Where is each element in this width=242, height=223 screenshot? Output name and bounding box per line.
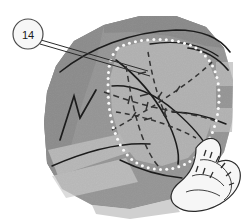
boundary-dot [152,38,155,41]
boundary-dot [147,166,150,169]
boundary-dot [183,42,186,45]
boundary-dot [188,160,191,163]
boundary-dot [159,168,162,171]
boundary-dot [141,164,144,167]
boundary-dot [217,82,220,85]
boundary-dot [126,154,129,157]
boundary-dot [159,38,162,41]
boundary-dot [108,108,111,111]
boundary-dot [213,125,216,128]
boundary-dot [165,38,168,41]
boundary-dot [211,131,214,134]
boundary-dot [177,40,180,43]
boundary-dot [107,83,110,86]
boundary-dot [115,48,118,51]
boundary-dot [194,47,197,50]
boundary-dot [217,88,220,91]
boundary-dot [140,39,143,42]
boundary-dot [122,149,125,152]
boundary-dot [114,132,117,135]
boundary-dot [107,96,110,99]
boundary-dot [109,114,112,117]
callout-label-14: 14 [22,29,34,41]
boundary-dot [134,40,137,43]
boundary-dot [217,107,220,110]
boundary-dot [130,158,133,161]
boundary-dot [204,55,207,58]
boundary-dot [153,168,156,171]
boundary-dot [214,70,217,73]
boundary-dot [165,168,168,171]
boundary-dot [208,59,211,62]
boundary-dot [146,38,149,41]
boundary-dot [171,167,174,170]
boundary-dot [183,163,186,166]
boundary-dot [108,65,111,68]
boundary-dot [211,65,214,68]
boundary-dot [217,101,220,104]
boundary-dot [199,50,202,53]
boundary-dot [116,138,119,141]
boundary-dot [215,76,218,79]
boundary-dot [215,119,218,122]
boundary-dot [112,126,115,129]
boundary-dot [189,44,192,47]
boundary-dot [177,165,180,168]
boundary-dot [107,90,110,93]
boundary-dot [112,53,115,56]
boundary-dot [107,102,110,105]
boundary-dot [110,120,113,123]
boundary-dot [119,143,122,146]
boundary-dot [216,113,219,116]
geological-sketch-map-figure: 14 [0,0,242,223]
boundary-dot [135,161,138,164]
boundary-dot [107,71,110,74]
boundary-dot [122,44,125,47]
map-canvas: 14 [0,0,242,223]
boundary-dot [107,77,110,80]
boundary-dot [171,39,174,42]
boundary-dot [128,42,131,45]
boundary-dot [218,95,221,98]
